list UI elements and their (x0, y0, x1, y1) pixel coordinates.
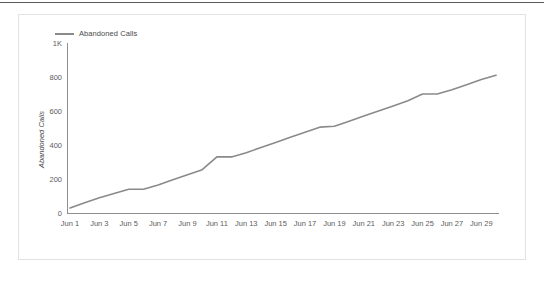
plot-area: 02004006008001K Jun 1Jun 3Jun 5Jun 7Jun … (67, 43, 499, 213)
y-tick-label: 1K (53, 39, 62, 48)
top-divider-rule (0, 2, 544, 3)
x-tick-label: Jun 29 (470, 219, 493, 228)
y-axis-title: Abandoned Calls (37, 85, 46, 195)
x-tick-label: Jun 23 (382, 219, 405, 228)
y-tick-label: 800 (49, 73, 62, 82)
x-tick-label: Jun 9 (178, 219, 196, 228)
x-tick-label: Jun 1 (61, 219, 79, 228)
x-tick-label: Jun 7 (149, 219, 167, 228)
x-tick-label: Jun 15 (264, 219, 287, 228)
x-tick-label: Jun 21 (353, 219, 376, 228)
x-tick-label: Jun 13 (235, 219, 258, 228)
legend-entry-abandoned-calls[interactable]: Abandoned Calls (55, 29, 137, 38)
x-tick-label: Jun 5 (120, 219, 138, 228)
series-line-abandoned-calls (67, 43, 499, 213)
y-tick-label: 200 (49, 175, 62, 184)
legend-entry-label: Abandoned Calls (79, 29, 137, 38)
y-tick-label: 600 (49, 107, 62, 116)
x-tick-label: Jun 3 (90, 219, 108, 228)
x-tick-label: Jun 17 (294, 219, 317, 228)
y-tick-label: 400 (49, 141, 62, 150)
x-tick-label: Jun 25 (411, 219, 434, 228)
x-tick-label: Jun 11 (206, 219, 228, 228)
chart-legend: Abandoned Calls (55, 29, 137, 38)
x-tick-label: Jun 27 (441, 219, 464, 228)
legend-line-swatch-icon (55, 33, 74, 35)
y-tick-label: 0 (58, 209, 62, 218)
chart-card: Abandoned Calls Abandoned Calls 02004006… (18, 14, 526, 260)
x-tick-label: Jun 19 (323, 219, 346, 228)
x-axis-line (67, 213, 499, 214)
